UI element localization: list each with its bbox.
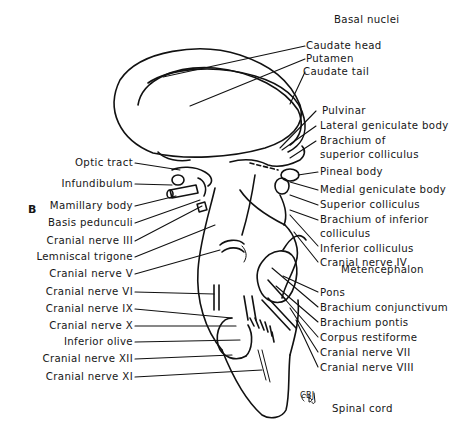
label-inferior-colliculus: Inferior colliculus — [320, 243, 414, 255]
label-mamillary-body: Mamillary body — [50, 200, 133, 212]
label-medial-geniculate-body: Medial geniculate body — [320, 184, 446, 196]
label-cranial-nerve-v: Cranial nerve V — [49, 268, 133, 280]
label-colliculus: colliculus — [320, 228, 370, 240]
label-inferior-olive: Inferior olive — [64, 336, 133, 348]
label-cranial-nerve-xii: Cranial nerve XII — [42, 353, 133, 365]
label-cranial-nerve-iii: Cranial nerve III — [46, 235, 133, 247]
basal-nuclei-drawing — [114, 49, 305, 161]
label-cranial-nerve-xi: Cranial nerve XI — [46, 371, 133, 383]
label-superior-colliculus-brachium: superior colliculus — [320, 149, 419, 161]
label-infundibulum: Infundibulum — [61, 178, 133, 190]
label-cranial-nerve-vii: Cranial nerve VII — [320, 347, 411, 359]
heading-basal-nuclei: Basal nuclei — [334, 14, 400, 26]
label-brachium-conjunctivum: Brachium conjunctivum — [320, 302, 448, 314]
hypothalamus-drawing — [167, 167, 212, 212]
label-pulvinar: Pulvinar — [322, 105, 366, 117]
leader-lines-right — [163, 46, 318, 367]
label-putamen: Putamen — [306, 53, 354, 65]
label-lemniscal-trigone: Lemniscal trigone — [36, 251, 133, 263]
label-superior-colliculus: Superior colliculus — [320, 199, 420, 211]
label-cranial-nerve-iv: Cranial nerve IV — [320, 257, 407, 269]
label-corpus-restiforme: Corpus restiforme — [320, 332, 417, 344]
label-brachium-of: Brachium of — [320, 135, 386, 147]
label-caudate-tail: Caudate tail — [303, 66, 369, 78]
panel-letter: B — [28, 204, 37, 216]
label-caudate-head: Caudate head — [306, 40, 382, 52]
label-brachium-pontis: Brachium pontis — [320, 317, 408, 329]
heading-spinal-cord: Spinal cord — [332, 403, 393, 415]
label-cranial-nerve-x: Cranial nerve X — [49, 320, 133, 332]
label-brachium-of-inferior: Brachium of inferior — [320, 214, 429, 226]
brainstem-diagram: Basal nuclei Metencephalon Spinal cord B… — [0, 0, 463, 439]
label-cranial-nerve-vi: Cranial nerve VI — [46, 286, 133, 298]
label-cranial-nerve-ix: Cranial nerve IX — [46, 303, 133, 315]
label-pons: Pons — [320, 287, 345, 299]
artist-signature: CBJ — [300, 390, 314, 402]
label-cranial-nerve-viii: Cranial nerve VIII — [320, 362, 414, 374]
label-lateral-geniculate-body: Lateral geniculate body — [320, 120, 449, 132]
label-optic-tract: Optic tract — [75, 157, 133, 169]
label-basis-pedunculi: Basis pedunculi — [48, 217, 133, 229]
label-pineal-body: Pineal body — [320, 166, 383, 178]
